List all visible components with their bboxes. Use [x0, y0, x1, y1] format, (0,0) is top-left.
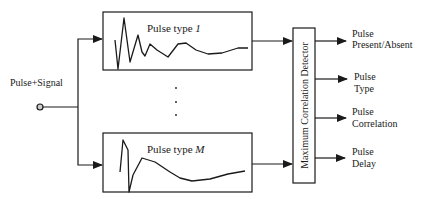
filter-box-type-m: [103, 133, 252, 192]
output-type-line2: Type: [354, 83, 374, 94]
output-labels: Pulse Present/Absent Pulse Type Pulse Co…: [352, 28, 413, 169]
block-diagram: Pulse+Signal Pulse type 1 Pulse type M M…: [0, 0, 425, 199]
output-type-line1: Pulse: [354, 71, 376, 82]
filter-label-m: Pulse type M: [147, 143, 205, 155]
output-present-absent-line2: Present/Absent: [352, 39, 413, 50]
filter-output-lines: [252, 41, 292, 164]
filter-label-1: Pulse type 1: [147, 22, 201, 34]
ellipsis-dots: [175, 87, 177, 116]
input-label: Pulse+Signal: [10, 77, 63, 88]
output-correlation-line1: Pulse: [352, 106, 374, 117]
max-correlation-detector: Maximum Correlation Detector: [293, 28, 315, 183]
detector-label: Maximum Correlation Detector: [299, 42, 310, 169]
output-present-absent-line1: Pulse: [352, 28, 374, 39]
input-branch-lines: [78, 39, 102, 165]
output-lines: [315, 41, 347, 158]
output-delay-line2: Delay: [352, 158, 376, 169]
output-correlation-line2: Correlation: [352, 118, 398, 129]
filter-box-type-1: [103, 12, 252, 70]
input-terminal: [37, 104, 78, 110]
output-delay-line1: Pulse: [352, 146, 374, 157]
